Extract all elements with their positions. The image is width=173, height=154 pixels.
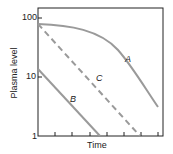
series-a-label: A (125, 54, 131, 64)
series-b-label: B (70, 94, 76, 104)
series-b-line (38, 69, 100, 136)
series-c-line (38, 24, 140, 136)
ytick-1: 1 (32, 131, 37, 141)
plot-frame (38, 8, 163, 136)
y-axis-label: Plasma level (9, 43, 19, 103)
ytick-10: 10 (26, 71, 36, 81)
x-ticks (55, 132, 158, 136)
x-axis-label: Time (87, 140, 107, 150)
series-a-line (38, 24, 158, 107)
series-c-label: C (96, 73, 103, 83)
ytick-100: 100 (22, 12, 37, 22)
